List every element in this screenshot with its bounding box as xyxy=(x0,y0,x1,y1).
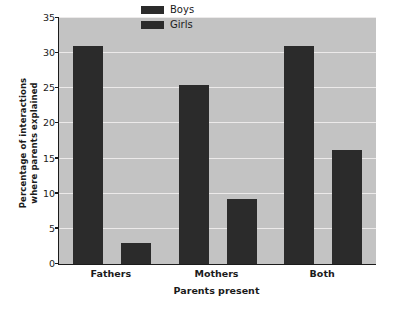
gridline xyxy=(59,122,376,123)
y-axis-tick-mark xyxy=(55,192,59,193)
plot-area xyxy=(58,18,376,265)
bar-fathers-girls xyxy=(121,243,151,264)
gridline xyxy=(59,17,376,18)
bar-mothers-girls xyxy=(227,199,257,264)
x-axis-tick-labels: FathersMothersBoth xyxy=(58,268,375,282)
gridline xyxy=(59,228,376,229)
x-axis-tick-label-fathers: Fathers xyxy=(91,268,131,279)
y-axis-tick-mark xyxy=(55,122,59,123)
y-axis-tick-mark xyxy=(55,52,59,53)
gridline xyxy=(59,87,376,88)
gridline xyxy=(59,193,376,194)
y-axis-tick-label: 30 xyxy=(29,47,55,58)
y-axis-tick-label: 15 xyxy=(29,153,55,164)
bar-both-boys xyxy=(284,46,314,264)
y-axis-tick-label: 0 xyxy=(29,258,55,269)
x-axis-tick-label-mothers: Mothers xyxy=(194,268,238,279)
legend-item-girls: Girls xyxy=(141,18,194,31)
y-axis-tick-mark xyxy=(55,227,59,228)
legend-item-boys: Boys xyxy=(141,3,194,16)
bar-both-girls xyxy=(332,150,362,264)
x-axis-title: Parents present xyxy=(58,285,375,296)
gridline xyxy=(59,158,376,159)
y-axis-tick-mark xyxy=(55,87,59,88)
legend-swatch-girls xyxy=(141,21,164,29)
legend-label-girls: Girls xyxy=(170,20,193,30)
gridline xyxy=(59,52,376,53)
y-axis-tick-label: 25 xyxy=(29,82,55,93)
y-axis-tick-label: 5 xyxy=(29,223,55,234)
y-axis-tick-mark xyxy=(55,263,59,264)
legend: BoysGirls xyxy=(141,3,194,33)
y-axis-tick-mark xyxy=(55,157,59,158)
y-axis-tick-label: 20 xyxy=(29,117,55,128)
bar-chart-figure: Percentage of interactions where parents… xyxy=(0,0,394,311)
bar-mothers-boys xyxy=(179,85,209,264)
y-axis-tick-mark xyxy=(55,17,59,18)
x-axis-tick-label-both: Both xyxy=(310,268,335,279)
bar-fathers-boys xyxy=(73,46,103,264)
y-axis-tick-label: 35 xyxy=(29,12,55,23)
y-axis-tick-labels: 05101520253035 xyxy=(27,0,55,311)
y-axis-tick-label: 10 xyxy=(29,188,55,199)
legend-swatch-boys xyxy=(141,6,164,14)
legend-label-boys: Boys xyxy=(170,5,194,15)
